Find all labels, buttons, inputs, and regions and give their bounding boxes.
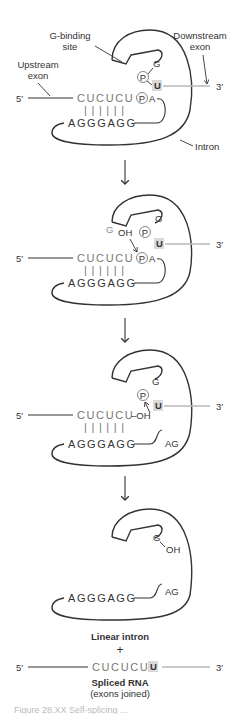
base-pairs: |||||| bbox=[84, 421, 129, 433]
linear-intron-label: Linear intron bbox=[91, 631, 149, 642]
base-pairs: |||||| bbox=[84, 264, 129, 276]
g-binding-site-pointer bbox=[95, 46, 122, 62]
g-binding-site-label-2: site bbox=[63, 41, 78, 52]
hydroxyl-label: –OH bbox=[131, 410, 151, 421]
base-pairs: |||||| bbox=[84, 104, 129, 116]
g-nucleotide: G bbox=[152, 376, 159, 387]
u-nucleotide: U bbox=[154, 80, 161, 91]
a-nucleotide: A bbox=[149, 253, 156, 264]
exons-joined-label: (exons joined) bbox=[90, 688, 150, 699]
u-nucleotide: U bbox=[156, 238, 163, 249]
panel-4-linear-intron: G OH AG AGGGAGG bbox=[52, 509, 192, 620]
phosphate-label-2: P bbox=[142, 227, 148, 238]
downstream-exon-label: Downstream bbox=[173, 30, 226, 41]
intron-tail bbox=[134, 584, 162, 598]
three-prime-label: 3′ bbox=[216, 401, 223, 412]
five-prime-label: 5′ bbox=[16, 93, 23, 104]
phosphate-label: P bbox=[139, 253, 145, 264]
a-nucleotide: A bbox=[149, 93, 156, 104]
internal-guide-sequence: AGGGAGG bbox=[68, 117, 137, 129]
g-binding-site-label: G-binding bbox=[49, 30, 90, 41]
panel-1-initial: G-binding site Downstream exon Upstream … bbox=[16, 30, 227, 152]
u-nucleotide: U bbox=[155, 400, 162, 411]
phosphate-label: P bbox=[139, 93, 145, 104]
five-prime-label: 5′ bbox=[16, 410, 23, 421]
figure-caption: Figure 28.XX Self-splicing ... bbox=[14, 705, 128, 714]
phosphate-label-2: P bbox=[140, 390, 146, 401]
g-nucleotide: G bbox=[153, 532, 160, 543]
spliced-u-nucleotide: U bbox=[150, 661, 157, 672]
intron-label: Intron bbox=[195, 141, 219, 152]
upstream-exon-label: Upstream bbox=[17, 59, 58, 70]
hydroxyl-label: OH bbox=[166, 544, 180, 555]
upstream-exon-pointer bbox=[38, 83, 50, 96]
bond bbox=[147, 81, 152, 85]
panel-3-exon-attack: AG P G U 3′ 5′ CUCUCU –OH |||||| AGGGAGG bbox=[16, 350, 223, 466]
intron-tail bbox=[134, 430, 162, 444]
products: Linear intron + 5′ CUCUCU U 3′ Spliced R… bbox=[16, 631, 223, 699]
downstream-exon-label-2: exon bbox=[190, 41, 211, 52]
internal-guide-sequence: AGGGAGG bbox=[68, 277, 137, 289]
internal-guide-sequence: AGGGAGG bbox=[68, 592, 137, 604]
spliced-sequence: CUCUCU bbox=[92, 661, 149, 673]
free-g-nucleotide: G bbox=[106, 224, 113, 235]
upstream-exon-label-2: exon bbox=[28, 70, 49, 81]
upstream-sequence: CUCUCU bbox=[77, 92, 134, 104]
internal-guide-sequence: AGGGAGG bbox=[68, 438, 137, 450]
three-prime-label: 3′ bbox=[216, 239, 223, 250]
intron-end-ag: AG bbox=[165, 586, 179, 597]
downstream-exon-pointer bbox=[203, 55, 207, 84]
plus-sign: + bbox=[116, 643, 123, 657]
upstream-sequence: CUCUCU bbox=[77, 252, 134, 264]
three-prime-label: 3′ bbox=[216, 662, 223, 673]
upstream-sequence: CUCUCU bbox=[77, 409, 134, 421]
five-prime-label: 5′ bbox=[16, 662, 23, 673]
g-nucleotide: G bbox=[155, 213, 162, 224]
intron-end-ag: AG bbox=[165, 438, 179, 449]
three-prime-label: 3′ bbox=[216, 81, 223, 92]
intron-pointer bbox=[180, 140, 193, 146]
phosphate-label-2: P bbox=[140, 72, 146, 83]
spliced-rna-label: Spliced RNA bbox=[91, 677, 148, 688]
hydroxyl-label: OH bbox=[118, 227, 132, 238]
attack-arrow bbox=[130, 239, 137, 252]
self-splicing-diagram: G-binding site Downstream exon Upstream … bbox=[0, 0, 240, 714]
panel-2-g-attack: G OH P G U 3′ 5′ CUCUCU P A |||||| AGGGA… bbox=[16, 195, 223, 305]
g-nucleotide: G bbox=[153, 58, 160, 69]
bond bbox=[148, 68, 153, 74]
bond bbox=[160, 542, 165, 547]
five-prime-label: 5′ bbox=[16, 253, 23, 264]
